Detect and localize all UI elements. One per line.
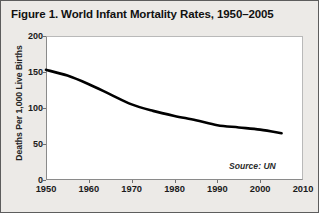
figure-container: Figure 1. World Infant Mortality Rates, … bbox=[0, 0, 319, 213]
line-chart: Deaths Per 1,000 Live Births 05010015020… bbox=[1, 1, 319, 213]
data-series-line bbox=[1, 1, 319, 213]
series-path bbox=[46, 70, 282, 133]
source-annotation: Source: UN bbox=[229, 161, 276, 171]
